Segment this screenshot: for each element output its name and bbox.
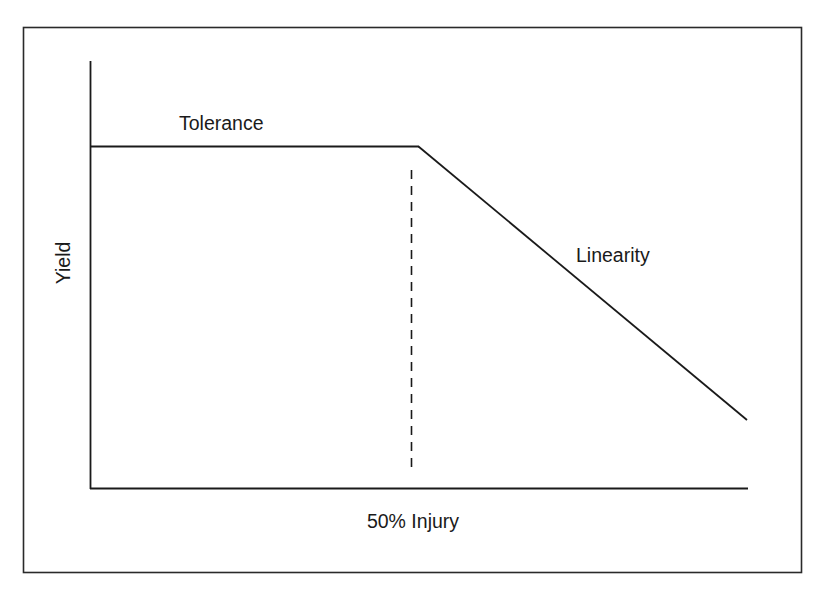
diagram-canvas: Tolerance Linearity Yield 50% Injury	[0, 0, 830, 597]
linearity-slope-line	[419, 147, 748, 421]
tolerance-label: Tolerance	[179, 112, 264, 134]
y-axis-label: Yield	[52, 242, 74, 285]
linearity-label: Linearity	[576, 244, 650, 266]
diagram-border	[24, 28, 802, 573]
x-axis-label: 50% Injury	[367, 510, 459, 532]
